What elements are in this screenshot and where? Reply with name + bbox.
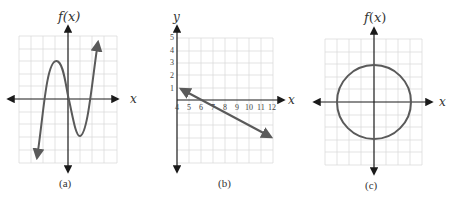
svg-text:3: 3 (170, 58, 174, 67)
panel-a: f(x) x (a) (8, 9, 137, 190)
y-tick-labels-b: 5 4 3 2 1 (170, 33, 174, 93)
svg-text:1: 1 (170, 84, 174, 93)
svg-text:12: 12 (268, 103, 276, 112)
figure-canvas: f(x) x (a) y x 5 4 3 2 1 4 5 (0, 0, 452, 205)
y-label-b: y (172, 10, 180, 24)
x-label-b: x (288, 93, 295, 107)
y-label-c: f(x) (363, 10, 386, 25)
caption-c: (c) (365, 179, 378, 192)
svg-text:9: 9 (235, 103, 239, 112)
svg-text:4: 4 (170, 46, 174, 55)
svg-text:5: 5 (187, 103, 191, 112)
y-label-a: f(x) (57, 9, 80, 24)
panel-c: f(x) x (c) (314, 10, 446, 192)
x-label-a: x (130, 92, 137, 106)
svg-text:8: 8 (223, 103, 227, 112)
x-label-c: x (439, 95, 446, 109)
panel-b: y x 5 4 3 2 1 4 5 6 7 8 9 10 11 12 (b) (170, 10, 295, 190)
svg-text:5: 5 (170, 33, 174, 42)
svg-text:11: 11 (257, 103, 265, 112)
svg-text:4: 4 (175, 103, 179, 112)
svg-text:6: 6 (199, 103, 203, 112)
caption-a: (a) (59, 177, 72, 190)
caption-b: (b) (218, 177, 231, 190)
svg-text:10: 10 (245, 103, 253, 112)
svg-text:7: 7 (211, 103, 215, 112)
svg-text:2: 2 (170, 71, 174, 80)
x-tick-labels-b: 4 5 6 7 8 9 10 11 12 (175, 103, 276, 112)
